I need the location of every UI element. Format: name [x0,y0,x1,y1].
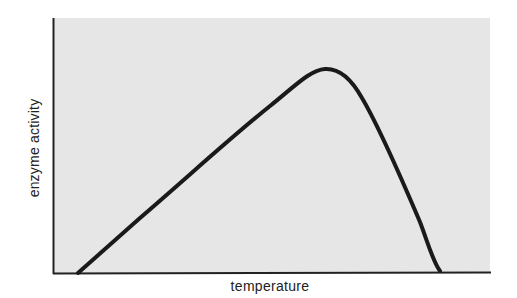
x-axis-label: temperature [231,278,310,294]
chart-svg [0,0,517,298]
enzyme-activity-chart: enzyme activity temperature [0,0,517,298]
x-axis [53,273,491,274]
y-axis-label: enzyme activity [26,99,42,198]
